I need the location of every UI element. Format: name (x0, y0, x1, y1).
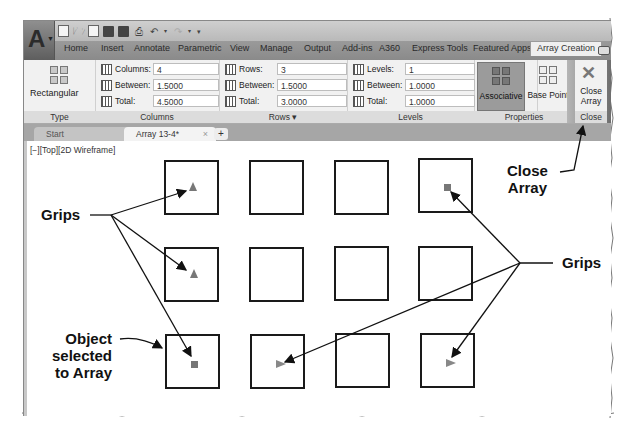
levels-count-row: Levels: 1 (353, 62, 475, 76)
rows-between-input[interactable]: 1.5000 (277, 79, 347, 91)
callout-grips-left: Grips (41, 206, 80, 223)
panel-properties-base-point: Base Point (474, 60, 575, 123)
tab-express-tools[interactable]: Express Tools (412, 43, 468, 53)
close-array-label: Close Array (577, 86, 605, 106)
columns-count-input[interactable]: 4 (153, 63, 219, 75)
level-spacing-icon (353, 80, 364, 91)
columns-count-row: Columns: 4 (101, 62, 219, 76)
columns-icon (101, 64, 112, 75)
rows-between-label: Between: (239, 80, 277, 90)
levels-between-label: Between: (367, 80, 405, 90)
new-icon[interactable] (58, 25, 69, 37)
row-spacing-icon (225, 80, 236, 91)
panel-title-rows-dropdown[interactable]: Rows ▾ (219, 111, 347, 123)
row-count-grip-icon[interactable] (189, 182, 197, 191)
base-point-icon (539, 66, 557, 84)
levels-between-input[interactable]: 1.0000 (405, 79, 475, 91)
application-menu-button[interactable]: A ▼ (24, 21, 55, 60)
ribbon: Rectangular Type Columns: 4 Between: 1.5… (24, 60, 611, 124)
close-array-button[interactable]: ✕ Close Array (577, 62, 603, 109)
chevron-down-icon: ▼ (47, 35, 54, 42)
close-tab-icon[interactable]: × (203, 127, 208, 141)
panel-title-levels: Levels (347, 111, 474, 123)
tab-insert[interactable]: Insert (101, 43, 124, 53)
panel-levels: Levels: 1 Between: 1.0000 Total: 1.0000 … (347, 60, 475, 123)
column-spacing-grip-icon[interactable] (276, 360, 286, 368)
redo-dropdown-icon[interactable]: ▾ (187, 26, 192, 37)
array-item-r2-c3[interactable] (334, 246, 389, 301)
array-item-r2-c4[interactable] (418, 246, 473, 301)
base-point-label: Base Point (526, 90, 570, 100)
rectangular-label: Rectangular (30, 88, 79, 98)
tab-output[interactable]: Output (304, 43, 331, 53)
tab-add-ins[interactable]: Add-ins (342, 43, 373, 53)
quick-access-toolbar: 🗁 ⎙ ↶ ▾ ↷ ▾ ▾ (58, 24, 202, 38)
customize-qat-icon[interactable]: ▾ (196, 26, 202, 37)
base-point-button[interactable]: Base Point (526, 62, 570, 109)
rows-total-icon (225, 96, 236, 107)
panel-close: ✕ Close Array Close (575, 60, 607, 123)
document-tab-bar: Start Array 13-4* × + (24, 124, 611, 141)
open-sheet-set-icon[interactable] (88, 25, 99, 37)
base-grip-icon[interactable] (191, 361, 198, 368)
row-spacing-grip-icon[interactable] (190, 269, 198, 278)
columns-between-label: Between: (115, 80, 153, 90)
undo-icon[interactable]: ↶ (148, 26, 159, 37)
array-item-r1-c2[interactable] (249, 160, 304, 215)
rows-count-label: Rows: (239, 64, 277, 74)
panel-rows: Rows: 3 Between: 1.5000 Total: 3.0000 Ro… (219, 60, 348, 123)
panel-title-columns: Columns (95, 111, 219, 123)
panel-type: Rectangular Type (24, 60, 96, 123)
doc-tab-array-13-4[interactable]: Array 13-4* × (124, 127, 216, 141)
tab-array-creation[interactable]: Array Creation (530, 41, 602, 56)
columns-total-input[interactable]: 4.5000 (153, 95, 219, 107)
array-item-r1-c3[interactable] (334, 160, 389, 215)
levels-total-input[interactable]: 1.0000 (405, 95, 475, 107)
rows-icon (225, 64, 236, 75)
redo-icon[interactable]: ↷ (172, 26, 183, 37)
rows-count-row: Rows: 3 (225, 62, 347, 76)
close-x-icon: ✕ (581, 62, 596, 84)
array-item-r3-c3[interactable] (335, 333, 390, 388)
save-icon[interactable] (103, 26, 114, 37)
rows-total-row: Total: 3.0000 (225, 94, 347, 108)
callout-grips-right: Grips (562, 254, 601, 271)
array-item-r2-c2[interactable] (249, 247, 304, 302)
panel-columns: Columns: 4 Between: 1.5000 Total: 4.5000… (95, 60, 220, 123)
columns-total-icon (101, 96, 112, 107)
rows-total-input[interactable]: 3.0000 (277, 95, 347, 107)
autocad-logo-icon: A (28, 25, 45, 53)
tab-view[interactable]: View (230, 43, 249, 53)
columns-between-input[interactable]: 1.5000 (153, 79, 219, 91)
viewport-controls[interactable]: [−][Top][2D Wireframe] (30, 145, 115, 155)
columns-total-row: Total: 4.5000 (101, 94, 219, 108)
levels-count-input[interactable]: 1 (405, 63, 475, 75)
tab-annotate[interactable]: Annotate (134, 43, 170, 53)
undo-dropdown-icon[interactable]: ▾ (163, 26, 168, 37)
rectangular-array-icon (50, 66, 68, 84)
column-count-grip-icon[interactable] (446, 359, 456, 367)
columns-count-label: Columns: (115, 64, 153, 74)
fill-grip-icon[interactable] (444, 184, 451, 191)
levels-count-label: Levels: (367, 64, 405, 74)
tab-manage[interactable]: Manage (260, 43, 293, 53)
rows-count-input[interactable]: 3 (277, 63, 347, 75)
callout-close-array: Close Array (507, 162, 548, 196)
tab-home[interactable]: Home (64, 43, 88, 53)
new-tab-button[interactable]: + (214, 128, 228, 140)
minimize-ribbon-button[interactable] (598, 46, 610, 55)
tab-featured-apps[interactable]: Featured Apps (473, 43, 532, 53)
callout-object-selected: Object selected to Array (48, 330, 112, 381)
levels-total-label: Total: (367, 96, 405, 106)
panel-title-type: Type (24, 111, 95, 123)
panel-title-close: Close (575, 111, 607, 123)
rows-total-label: Total: (239, 96, 277, 106)
open-icon[interactable]: 🗁 (73, 26, 84, 37)
columns-total-label: Total: (115, 96, 153, 106)
columns-between-row: Between: 1.5000 (101, 78, 219, 92)
plot-icon[interactable]: ⎙ (133, 26, 144, 37)
save-as-icon[interactable] (118, 26, 129, 37)
tab-parametric[interactable]: Parametric (178, 43, 222, 53)
rows-between-row: Between: 1.5000 (225, 78, 347, 92)
tab-a360[interactable]: A360 (379, 43, 400, 53)
